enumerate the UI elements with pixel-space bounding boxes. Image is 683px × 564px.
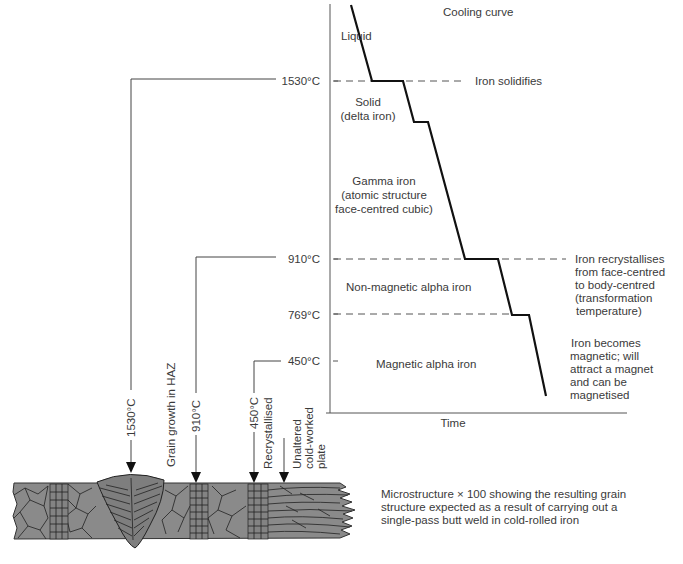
- weld-label-unaltered-3: plate: [315, 444, 327, 469]
- caption-line-2: structure expected as a result of carryi…: [381, 501, 618, 513]
- iron-cooling-diagram: Cooling curve Liquid Solid (delta iron) …: [0, 0, 683, 564]
- annotation-recryst-3: to body-centred: [575, 279, 655, 291]
- cooling-curve-chart: Cooling curve Liquid Solid (delta iron) …: [282, 4, 666, 429]
- weld-label-recrystallised: Recrystallised: [262, 397, 274, 469]
- caption-line-1: Microstructure × 100 showing the resulti…: [381, 488, 626, 500]
- figure-caption: Microstructure × 100 showing the resulti…: [381, 488, 626, 526]
- phase-solid-sub: (delta iron): [341, 110, 396, 122]
- arrow-unaltered-icon: [279, 472, 289, 483]
- annotation-magnetic-2: magnetic; will: [570, 350, 639, 362]
- temp-label-450: 450°C: [288, 355, 320, 367]
- annotation-magnetic-1: Iron becomes: [571, 337, 641, 349]
- phase-gamma: Gamma iron: [352, 175, 415, 187]
- x-axis-label: Time: [440, 417, 465, 429]
- weld-label-unaltered-1: Unaltered: [291, 419, 303, 469]
- annotation-magnetic-3: attract a magnet: [570, 363, 654, 375]
- arrow-1530-icon: [126, 462, 136, 473]
- annotation-recryst-1: Iron recrystallises: [575, 253, 665, 265]
- chart-title: Cooling curve: [443, 6, 513, 18]
- arrow-450-icon: [249, 472, 259, 483]
- weld-label-450: 450°C: [248, 397, 260, 429]
- annotation-magnetic-5: magnetised: [570, 389, 629, 401]
- phase-solid: Solid: [355, 96, 381, 108]
- arrow-910-icon: [191, 472, 201, 483]
- fine-band-450: [248, 484, 268, 539]
- annotation-magnetic-4: and can be: [570, 376, 627, 388]
- phase-gamma-sub1: (atomic structure: [341, 189, 427, 201]
- temp-label-1530: 1530°C: [282, 75, 321, 87]
- annotation-recryst-2: from face-centred: [575, 266, 665, 278]
- fine-band-910: [190, 484, 208, 539]
- phase-nonmagnetic-alpha: Non-magnetic alpha iron: [346, 281, 471, 293]
- phase-magnetic-alpha: Magnetic alpha iron: [376, 358, 476, 370]
- weld-microstructure: [13, 474, 355, 548]
- annotation-solidifies: Iron solidifies: [475, 75, 542, 87]
- temp-label-769: 769°C: [288, 309, 320, 321]
- weld-label-grain-growth: Grain growth in HAZ: [165, 363, 177, 467]
- leader-450-upper: [254, 361, 281, 393]
- caption-line-3: single-pass butt weld in cold-rolled iro…: [381, 514, 579, 526]
- weld-zone-labels: 1530°C Grain growth in HAZ 910°C 450°C R…: [125, 363, 327, 469]
- annotation-recryst-5: temperature): [576, 305, 642, 317]
- phase-liquid: Liquid: [341, 30, 372, 42]
- weld-label-910: 910°C: [190, 400, 202, 432]
- weld-label-1530: 1530°C: [125, 399, 137, 438]
- leader-910-upper: [196, 257, 276, 393]
- weld-label-unaltered-2: cold-worked: [303, 407, 315, 469]
- phase-gamma-sub2: face-centred cubic): [335, 203, 433, 215]
- temp-label-910: 910°C: [288, 253, 320, 265]
- leader-1530-upper: [131, 79, 276, 390]
- annotation-recryst-4: (transformation: [575, 292, 652, 304]
